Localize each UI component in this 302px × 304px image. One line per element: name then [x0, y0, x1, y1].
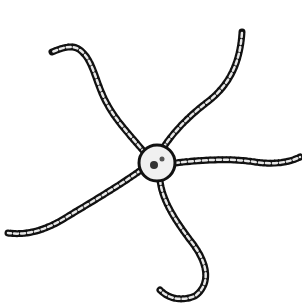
brittle-star-illustration — [0, 0, 302, 304]
central-disc — [139, 145, 175, 181]
